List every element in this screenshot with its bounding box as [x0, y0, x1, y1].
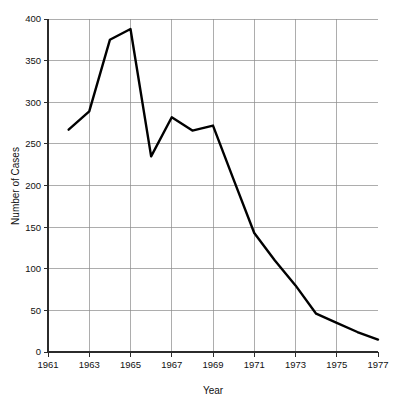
x-tick-label: 1971 [244, 359, 265, 370]
x-tick-label: 1963 [79, 359, 100, 370]
x-tick-label: 1969 [202, 359, 223, 370]
x-tick-marks-group [48, 352, 378, 357]
y-tick-label: 400 [25, 13, 41, 24]
line-chart: 050100150200250300350400 196119631965196… [0, 0, 393, 402]
y-tick-label: 0 [36, 346, 41, 357]
y-axis-title: Number of Cases [10, 147, 21, 225]
y-tick-label: 100 [25, 263, 41, 274]
y-tick-marks-group [44, 19, 48, 352]
x-tick-labels-group: 196119631965196719691971197319751977 [37, 359, 388, 370]
x-tick-label: 1973 [285, 359, 306, 370]
y-tick-labels-group: 050100150200250300350400 [25, 13, 41, 357]
y-tick-label: 300 [25, 97, 41, 108]
chart-canvas: 050100150200250300350400 196119631965196… [0, 0, 393, 402]
y-tick-label: 150 [25, 222, 41, 233]
x-tick-label: 1965 [120, 359, 141, 370]
y-tick-label: 50 [30, 305, 41, 316]
y-tick-label: 200 [25, 180, 41, 191]
x-tick-label: 1977 [367, 359, 388, 370]
x-tick-label: 1967 [161, 359, 182, 370]
x-tick-label: 1961 [37, 359, 58, 370]
data-series-line [69, 29, 378, 340]
x-axis-title: Year [203, 385, 224, 396]
y-tick-label: 250 [25, 138, 41, 149]
gridlines-group [48, 19, 378, 352]
y-tick-label: 350 [25, 55, 41, 66]
x-tick-label: 1975 [326, 359, 347, 370]
